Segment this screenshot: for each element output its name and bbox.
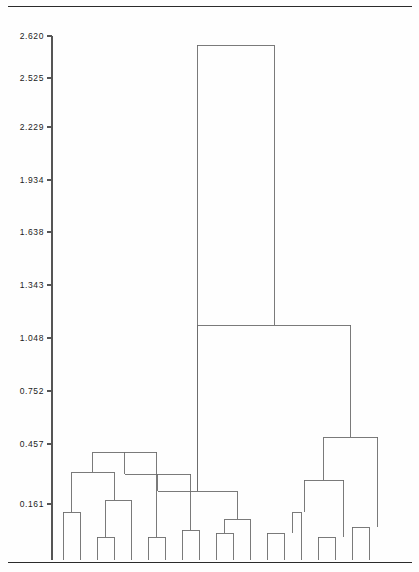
dendrogram-tree	[63, 45, 378, 560]
dendrogram-link-m1	[63, 512, 80, 560]
dendrogram-link-m3	[106, 500, 132, 560]
dendrogram-link-m5	[148, 537, 165, 560]
dendrogram-link-m17	[324, 437, 378, 527]
dendrogram-plot	[0, 0, 419, 572]
dendrogram-link-m12	[267, 533, 284, 560]
dendrogram-link-m4	[72, 472, 115, 512]
dendrogram-link-m7	[182, 530, 199, 560]
dendrogram-link-m16	[352, 527, 369, 560]
dendrogram-link-m15	[304, 480, 344, 537]
y-axis	[47, 36, 52, 560]
dendrogram-link-root	[197, 45, 274, 491]
dendrogram-link-m9	[216, 533, 233, 560]
dendrogram-link-m2	[97, 537, 114, 560]
dendrogram-link-m14	[318, 537, 335, 560]
dendrogram-link-m13	[293, 512, 302, 560]
dendrogram-figure: 2.6202.5252.2291.9341.6381.3431.0480.752…	[0, 0, 419, 572]
dendrogram-link-m10	[225, 519, 251, 560]
dendrogram-link-m18	[197, 325, 350, 491]
